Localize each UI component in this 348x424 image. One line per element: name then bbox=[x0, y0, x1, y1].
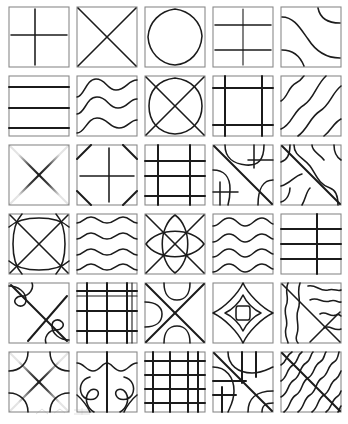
tile-artwork-plus-cross-starburst bbox=[8, 6, 70, 68]
tile-artwork-ruled-rows-single-column bbox=[280, 213, 342, 275]
pattern-tile-eight-point-starburst[interactable] bbox=[8, 144, 70, 206]
pattern-tile-stacked-double-cross[interactable] bbox=[212, 6, 274, 68]
pattern-tile-x-with-edge-semicircles[interactable] bbox=[144, 282, 206, 344]
pattern-tile-wave-field-over-x[interactable] bbox=[280, 282, 342, 344]
tile-artwork-double-ellipse-cross bbox=[144, 213, 206, 275]
pattern-tile-horizontal-bands[interactable] bbox=[8, 75, 70, 137]
tile-artwork-fine-mesh-grid bbox=[144, 351, 206, 413]
pattern-tile-dense-diagonal-squiggles[interactable] bbox=[280, 351, 342, 413]
pattern-tile-four-ripple-waves[interactable] bbox=[76, 213, 138, 275]
pattern-tile-offset-plaid-grid[interactable] bbox=[144, 144, 206, 206]
pattern-tile-x-with-blob-lobes[interactable] bbox=[8, 282, 70, 344]
pattern-tile-starburst-with-arcs[interactable] bbox=[8, 351, 70, 413]
pattern-tile-plus-cross-starburst[interactable] bbox=[8, 6, 70, 68]
tile-artwork-triple-sine-waves bbox=[76, 75, 138, 137]
tile-artwork-dense-diagonal-squiggles bbox=[280, 351, 342, 413]
tile-artwork-starburst-with-arcs bbox=[8, 351, 70, 413]
pattern-tile-double-border-lattice[interactable] bbox=[212, 75, 274, 137]
tile-artwork-s-curve-sweeps bbox=[280, 6, 342, 68]
tile-artwork-x-with-edge-semicircles bbox=[144, 282, 206, 344]
pattern-tile-corner-to-corner-x[interactable] bbox=[76, 6, 138, 68]
pattern-tile-fine-mesh-grid[interactable] bbox=[144, 351, 206, 413]
tile-artwork-cross-with-clipped-corners bbox=[76, 144, 138, 206]
pattern-tile-dense-ripple-bands[interactable] bbox=[212, 213, 274, 275]
tile-artwork-diagonal-with-corner-hooks bbox=[212, 144, 274, 206]
tile-artwork-dense-plaid-grid bbox=[76, 282, 138, 344]
pattern-tile-woven-diamond-lattice[interactable] bbox=[8, 213, 70, 275]
tile-artwork-diagonal-over-rounded-grid bbox=[212, 351, 274, 413]
tile-artwork-woven-diamond-lattice bbox=[8, 213, 70, 275]
pattern-tile-oval-over-x[interactable] bbox=[144, 75, 206, 137]
tile-artwork-diagonal-wave-field bbox=[280, 75, 342, 137]
pattern-tile-rounded-diamond-squircle[interactable] bbox=[144, 6, 206, 68]
tile-artwork-x-with-blob-lobes bbox=[8, 282, 70, 344]
pattern-tile-diagonal-over-rounded-grid[interactable] bbox=[212, 351, 274, 413]
tile-artwork-offset-plaid-grid bbox=[144, 144, 206, 206]
scanner-speckle-artifact bbox=[34, 406, 94, 416]
tile-artwork-four-ripple-waves bbox=[76, 213, 138, 275]
tile-artwork-diagonal-band-with-waves bbox=[280, 144, 342, 206]
pattern-tile-diagonal-band-with-waves[interactable] bbox=[280, 144, 342, 206]
pattern-sheet bbox=[0, 0, 348, 424]
pattern-tile-dense-plaid-grid[interactable] bbox=[76, 282, 138, 344]
tile-artwork-eight-point-starburst bbox=[8, 144, 70, 206]
pattern-grid bbox=[8, 6, 342, 418]
tile-artwork-stacked-double-cross bbox=[212, 6, 274, 68]
tile-artwork-wave-field-over-x bbox=[280, 282, 342, 344]
tile-artwork-concentric-rounded-diamonds bbox=[212, 282, 274, 344]
tile-artwork-oval-over-x bbox=[144, 75, 206, 137]
pattern-tile-ruled-rows-single-column[interactable] bbox=[280, 213, 342, 275]
pattern-tile-concentric-rounded-diamonds[interactable] bbox=[212, 282, 274, 344]
tile-artwork-dense-ripple-bands bbox=[212, 213, 274, 275]
pattern-tile-s-curve-sweeps[interactable] bbox=[280, 6, 342, 68]
tile-artwork-corner-to-corner-x bbox=[76, 6, 138, 68]
tile-artwork-rounded-diamond-squircle bbox=[144, 6, 206, 68]
tile-artwork-split-panel-hooks bbox=[76, 351, 138, 413]
pattern-tile-diagonal-with-corner-hooks[interactable] bbox=[212, 144, 274, 206]
pattern-tile-triple-sine-waves[interactable] bbox=[76, 75, 138, 137]
tile-artwork-horizontal-bands bbox=[8, 75, 70, 137]
pattern-tile-split-panel-hooks[interactable] bbox=[76, 351, 138, 413]
pattern-tile-diagonal-wave-field[interactable] bbox=[280, 75, 342, 137]
pattern-tile-cross-with-clipped-corners[interactable] bbox=[76, 144, 138, 206]
pattern-tile-double-ellipse-cross[interactable] bbox=[144, 213, 206, 275]
tile-artwork-double-border-lattice bbox=[212, 75, 274, 137]
